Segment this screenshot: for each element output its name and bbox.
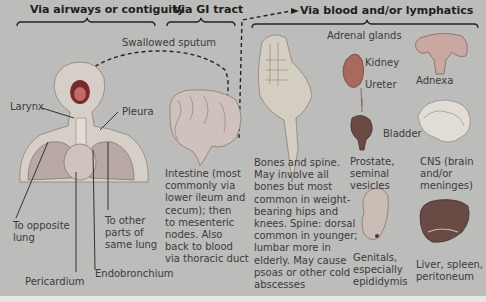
label-bones-and-spine: Bones and spine. May involve all bones b… [254,157,358,291]
leader-pleura [100,112,118,130]
label-cns: CNS (brain and/or meninges) [420,156,474,193]
testis-illustration [362,188,388,240]
label-prostate: Prostate, seminal vesicles [350,156,394,193]
label-kidney: Kidney [365,57,399,69]
brace-blood [252,20,478,28]
brace-gi [167,18,235,26]
intestine-illustration [170,90,241,166]
label-intestine: Intestine (most commonly via lower ileum… [165,168,249,266]
label-pericardium: Pericardium [25,276,84,288]
label-adnexa: Adnexa [416,75,453,87]
header-airways: Via airways or contiguity [30,3,184,16]
arrowhead-blood [291,8,299,14]
label-bladder: Bladder [383,128,422,140]
label-to-opposite-lung: To opposite lung [13,220,70,244]
label-endobronchium: Endobronchium [95,268,174,280]
label-pleura: Pleura [122,106,154,118]
label-genitals: Genitals, especially epididymis [353,252,407,289]
header-gi: Via GI tract [173,3,243,16]
label-liver: Liver, spleen, peritoneum [416,259,483,283]
label-adrenal-glands: Adrenal glands [327,30,402,42]
label-swallowed-sputum: Swallowed sputum [122,37,216,49]
label-ureter: Ureter [365,79,397,91]
label-to-other-parts: To other parts of same lung [105,215,157,252]
header-blood: Via blood and/or lymphatics [300,4,473,17]
label-larynx: Larynx [10,101,44,113]
uterus-adnexa-illustration [416,33,468,74]
brace-airways [17,18,155,26]
liver-spleen-illustration [420,200,469,243]
brain-illustration [418,100,470,142]
